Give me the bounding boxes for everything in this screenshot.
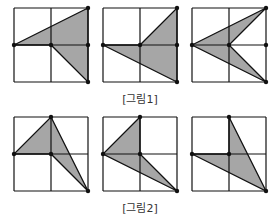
vertex-dot [264, 189, 268, 193]
vertex-dot [138, 152, 142, 156]
vertex-dot [49, 43, 53, 47]
vertex-dot [227, 152, 231, 156]
vertex-dot [190, 43, 194, 47]
grid-diagram-5 [101, 115, 179, 193]
vertex-dot [227, 43, 231, 47]
vertex-dot [86, 43, 90, 47]
vertex-dot [175, 189, 179, 193]
grid-diagram-2 [101, 6, 179, 84]
grid-diagram-1 [12, 6, 90, 84]
vertex-dot [86, 189, 90, 193]
vertex-dot [190, 152, 194, 156]
grid-diagram-6 [190, 115, 268, 193]
vertex-dot [175, 80, 179, 84]
vertex-dot [49, 152, 53, 156]
vertex-dot [101, 152, 105, 156]
vertex-dot [12, 152, 16, 156]
vertex-dot [138, 115, 142, 119]
vertex-dot [227, 115, 231, 119]
grid-diagram-4 [12, 115, 90, 193]
vertex-dot [12, 43, 16, 47]
vertex-dot [86, 80, 90, 84]
vertex-dot [175, 43, 179, 47]
vertex-dot [49, 115, 53, 119]
vertex-dot [264, 6, 268, 10]
vertex-dot [175, 6, 179, 10]
vertex-dot [264, 80, 268, 84]
vertex-dot [264, 43, 268, 47]
grid-diagram-3 [190, 6, 268, 84]
figure-canvas [0, 0, 276, 218]
vertex-dot [101, 43, 105, 47]
figure-1-caption: [그림1] [100, 90, 180, 106]
vertex-dot [86, 6, 90, 10]
figure-2-caption: [그림2] [100, 199, 180, 215]
vertex-dot [138, 43, 142, 47]
